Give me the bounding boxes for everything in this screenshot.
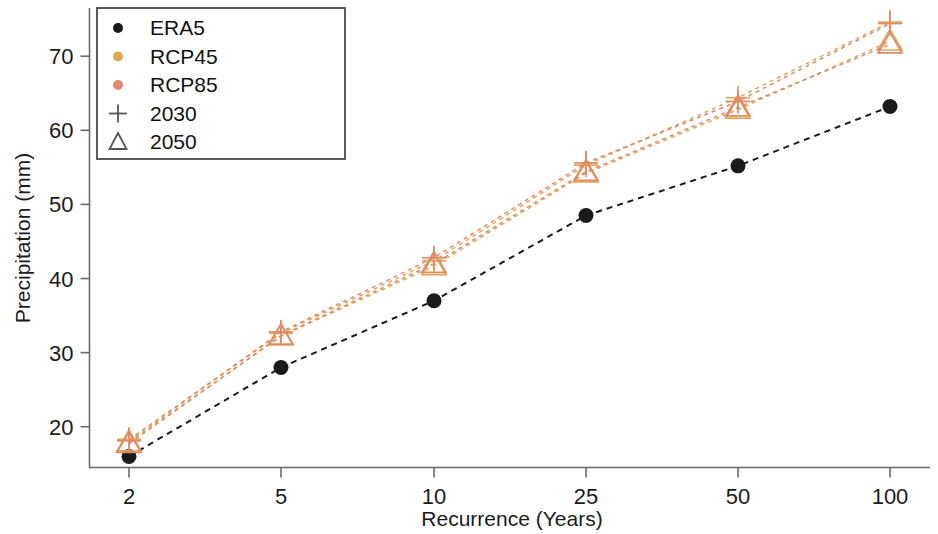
y-tick-label: 30 xyxy=(49,341,73,366)
precipitation-recurrence-chart: 203040506070 25102550100 Precipitation (… xyxy=(0,0,938,534)
x-tick: 5 xyxy=(275,468,287,509)
x-tick-label: 50 xyxy=(726,484,750,509)
y-axis-ticks: 203040506070 xyxy=(49,44,89,440)
x-axis-title: Recurrence (Years) xyxy=(421,507,602,530)
marker-circle xyxy=(427,293,442,308)
x-tick: 25 xyxy=(574,468,598,509)
legend-marker-circle xyxy=(113,52,123,62)
y-tick: 60 xyxy=(49,118,89,143)
chart-legend: ERA5RCP45RCP8520302050 xyxy=(97,8,345,159)
y-tick: 50 xyxy=(49,192,89,217)
y-tick: 20 xyxy=(49,415,89,440)
y-tick-label: 70 xyxy=(49,44,73,69)
legend-label: RCP85 xyxy=(150,73,218,96)
legend-box xyxy=(97,8,345,159)
legend-label: 2030 xyxy=(150,102,197,125)
y-tick-label: 50 xyxy=(49,192,73,217)
marker-plus xyxy=(574,151,598,175)
y-tick-label: 20 xyxy=(49,415,73,440)
y-tick-label: 60 xyxy=(49,118,73,143)
x-tick: 100 xyxy=(872,468,909,509)
x-tick: 50 xyxy=(726,468,750,509)
marker-circle xyxy=(579,208,594,223)
legend-label: 2050 xyxy=(150,130,197,153)
x-tick-label: 2 xyxy=(123,484,135,509)
marker-circle xyxy=(274,360,289,375)
marker-circle xyxy=(731,158,746,173)
x-tick-label: 5 xyxy=(275,484,287,509)
y-axis-title: Precipitation (mm) xyxy=(11,153,34,323)
y-tick: 30 xyxy=(49,341,89,366)
x-tick: 2 xyxy=(123,468,135,509)
y-tick-label: 40 xyxy=(49,267,73,292)
marker-circle xyxy=(883,99,898,114)
x-tick: 10 xyxy=(422,468,446,509)
legend-label: ERA5 xyxy=(150,16,205,39)
y-tick: 70 xyxy=(49,44,89,69)
legend-marker-circle xyxy=(113,80,123,90)
x-tick-label: 25 xyxy=(574,484,598,509)
y-tick: 40 xyxy=(49,267,89,292)
legend-marker-circle xyxy=(113,23,123,33)
x-tick-label: 10 xyxy=(422,484,446,509)
chart-canvas: 203040506070 25102550100 Precipitation (… xyxy=(0,0,938,534)
x-axis-ticks: 25102550100 xyxy=(123,468,908,509)
legend-label: RCP45 xyxy=(150,45,218,68)
x-tick-label: 100 xyxy=(872,484,909,509)
